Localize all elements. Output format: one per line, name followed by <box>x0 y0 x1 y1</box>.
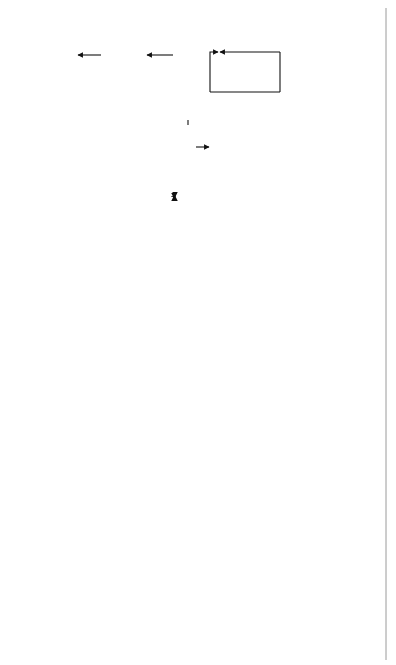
connectors <box>78 52 280 198</box>
planning-process-diagram <box>0 0 396 665</box>
